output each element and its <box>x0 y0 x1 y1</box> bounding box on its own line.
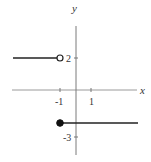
x-axis-label: x <box>139 84 145 96</box>
step-function-graph: y x -1 1 2 -3 <box>0 0 151 162</box>
x-tick-label-1: 1 <box>89 96 94 107</box>
open-endpoint <box>57 55 63 61</box>
x-tick-label-neg1: -1 <box>55 96 63 107</box>
closed-endpoint <box>57 120 64 127</box>
y-tick-label-2: 2 <box>66 53 71 64</box>
y-axis-label: y <box>71 2 77 14</box>
y-tick-label-neg3: -3 <box>63 132 71 143</box>
